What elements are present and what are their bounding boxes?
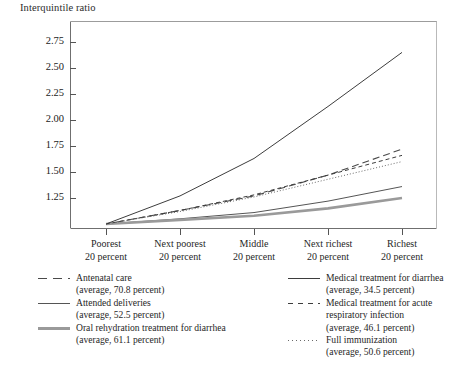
- legend-average: (average, 52.5 percent): [76, 309, 288, 321]
- plot-area: [70, 21, 437, 229]
- legend-swatch-solid-icon: [38, 303, 70, 304]
- x-tick-mark: [180, 229, 181, 235]
- legend-label: Attended deliveries: [76, 297, 288, 309]
- legend-item-medical-treatment-diarrhea: Medical treatment for diarrhea (average,…: [288, 272, 460, 297]
- legend-label: Oral rehydration treatment for diarrhea: [76, 322, 288, 334]
- legend-label: Antenatal care: [76, 272, 288, 284]
- legend-swatch-solid-icon: [288, 278, 320, 279]
- y-tick-mark: [70, 146, 76, 147]
- legend-swatch-long-dash-icon: [38, 278, 70, 279]
- y-tick-mark: [70, 94, 76, 95]
- y-tick-label: 2.00: [26, 113, 64, 124]
- legend-average: (average, 61.1 percent): [76, 334, 288, 346]
- x-tick-label-line2: 20 percent: [352, 251, 452, 264]
- y-tick-label: 2.25: [26, 87, 64, 98]
- chart-legend: Antenatal care (average, 70.8 percent) A…: [0, 272, 460, 372]
- x-tick-mark: [328, 229, 329, 235]
- y-tick-label: 1.50: [26, 165, 64, 176]
- x-tick-mark: [106, 229, 107, 235]
- y-tick-mark: [70, 198, 76, 199]
- legend-item-full-immunization: Full immunization (average, 50.6 percent…: [288, 334, 460, 359]
- y-tick-label: 1.75: [26, 139, 64, 150]
- y-tick-mark: [70, 172, 76, 173]
- legend-column-left: Antenatal care (average, 70.8 percent) A…: [38, 272, 288, 346]
- y-tick-mark: [70, 120, 76, 121]
- legend-label: Medical treatment for acute respiratory …: [326, 297, 460, 322]
- legend-average: (average, 34.5 percent): [326, 284, 460, 296]
- x-tick-mark: [254, 229, 255, 235]
- legend-item-medical-treatment-ari: Medical treatment for acute respiratory …: [288, 297, 460, 334]
- legend-swatch-dotted-icon: [288, 340, 320, 341]
- y-tick-mark: [70, 68, 76, 69]
- legend-swatch-short-dash-icon: [288, 303, 320, 304]
- x-tick-mark: [402, 229, 403, 235]
- legend-label: Medical treatment for diarrhea: [326, 272, 460, 284]
- legend-swatch-thick-gray-icon: [38, 327, 70, 330]
- x-tick-label-richest: Richest 20 percent: [352, 238, 452, 263]
- legend-item-oral-rehydration: Oral rehydration treatment for diarrhea …: [38, 322, 288, 347]
- y-tick-label: 2.50: [26, 61, 64, 72]
- y-tick-mark: [70, 42, 76, 43]
- chart-figure: Interquintile ratio 2.75 2.50 2.25 2.00 …: [0, 0, 460, 383]
- y-axis-title: Interquintile ratio: [20, 2, 96, 13]
- y-tick-label: 2.75: [26, 35, 64, 46]
- legend-label: Full immunization: [326, 334, 460, 346]
- legend-average: (average, 46.1 percent): [326, 322, 460, 334]
- legend-item-antenatal-care: Antenatal care (average, 70.8 percent): [38, 272, 288, 297]
- y-tick-label: 1.25: [26, 191, 64, 202]
- legend-average: (average, 50.6 percent): [326, 346, 460, 358]
- legend-item-attended-deliveries: Attended deliveries (average, 52.5 perce…: [38, 297, 288, 322]
- legend-column-right: Medical treatment for diarrhea (average,…: [288, 272, 460, 359]
- x-tick-label-line1: Richest: [352, 238, 452, 251]
- legend-average: (average, 70.8 percent): [76, 284, 288, 296]
